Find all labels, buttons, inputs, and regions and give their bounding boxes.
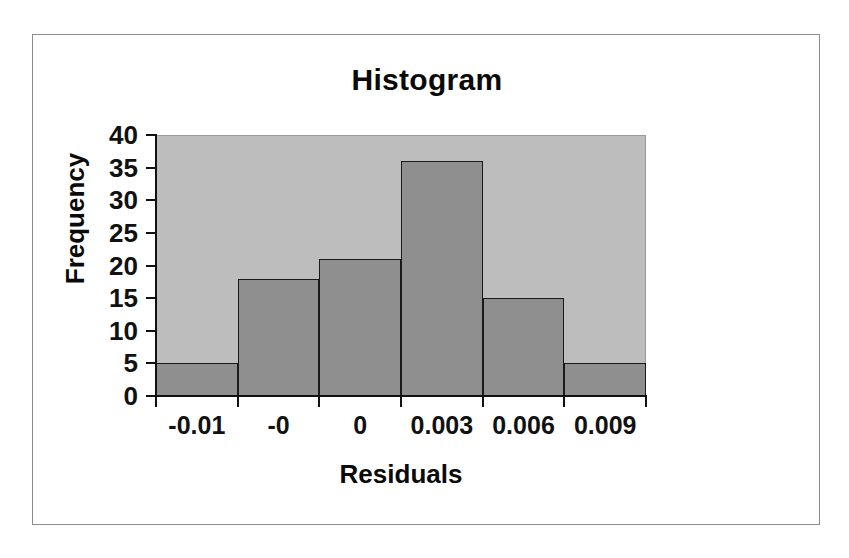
y-axis-tick [146, 199, 155, 201]
x-axis-tick [482, 397, 484, 407]
x-axis-tick [237, 397, 239, 407]
x-axis-tick [563, 397, 565, 407]
y-axis-line [155, 134, 157, 397]
y-axis-tick-label: 0 [74, 383, 138, 409]
y-axis-tick [146, 330, 155, 332]
x-axis-tick [318, 397, 320, 407]
y-axis-tick-label: 5 [74, 350, 138, 376]
chart-frame: Histogram 0510152025303540 -0.01-000.003… [32, 34, 820, 525]
y-axis-tick [146, 134, 155, 136]
y-axis-tick-label: 10 [74, 318, 138, 344]
histogram-bar [564, 363, 646, 396]
histogram-bar [401, 161, 483, 396]
x-axis-tick [400, 397, 402, 407]
plot-area [156, 135, 646, 396]
x-axis-tick-label: 0.009 [545, 413, 665, 438]
x-axis-title: Residuals [156, 459, 646, 490]
y-axis-tick [146, 265, 155, 267]
histogram-bar [483, 298, 565, 396]
y-axis-title: Frequency [60, 124, 91, 314]
histogram-bar [238, 279, 320, 396]
x-axis-tick [645, 397, 647, 407]
x-axis-tick [155, 397, 157, 407]
y-axis-tick [146, 167, 155, 169]
y-axis-tick [146, 232, 155, 234]
y-axis-tick [146, 297, 155, 299]
chart-title: Histogram [33, 63, 821, 97]
y-axis-tick [146, 362, 155, 364]
histogram-bar [156, 363, 238, 396]
histogram-bar [319, 259, 401, 396]
y-axis-tick [146, 395, 155, 397]
figure-canvas: Histogram 0510152025303540 -0.01-000.003… [0, 0, 849, 558]
